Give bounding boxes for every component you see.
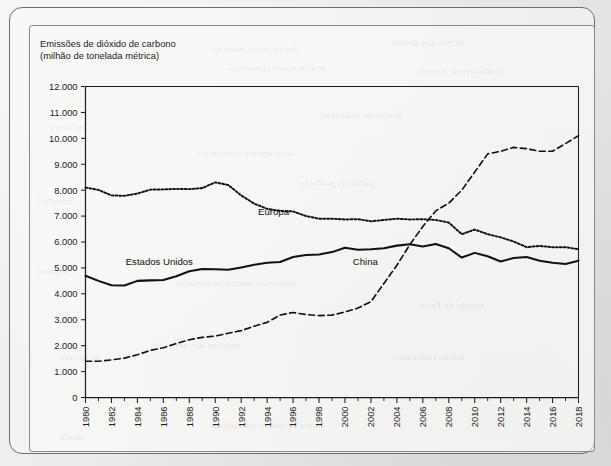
x-tick-label: 2010	[470, 407, 480, 428]
x-tick-label: 1990	[211, 407, 221, 428]
y-tick-label: 9.000	[54, 160, 77, 170]
x-tick-label: 1980	[81, 407, 91, 428]
x-tick-label: 2000	[340, 407, 350, 428]
y-tick-label: 10.000	[49, 134, 77, 144]
chart-series-labels: Estados UnidosEuropaChina	[126, 206, 379, 268]
x-tick-label: 1994	[263, 407, 273, 428]
x-tick-label: 1992	[237, 407, 247, 428]
x-tick-label: 2018	[574, 407, 584, 428]
x-tick-label: 2014	[522, 407, 532, 428]
series-label-europa: Europa	[258, 206, 290, 217]
y-tick-label: 1.000	[54, 367, 77, 377]
y-tick-label: 11.000	[50, 108, 78, 118]
line-chart: 01.0002.0003.0004.0005.0006.0007.0008.00…	[0, 0, 611, 466]
chart-axes	[81, 87, 579, 404]
x-tick-label: 2004	[392, 407, 402, 428]
y-tick-label: 8.000	[54, 186, 77, 196]
y-tick-label: 2.000	[54, 341, 77, 351]
x-tick-label: 1988	[185, 407, 195, 428]
y-tick-label: 0	[72, 393, 77, 403]
series-line-china	[86, 136, 579, 361]
chart-series-lines	[86, 136, 579, 361]
y-tick-label: 7.000	[54, 211, 77, 221]
x-tick-label: 1996	[288, 407, 298, 428]
x-tick-label: 2008	[444, 407, 454, 428]
y-tick-label: 6.000	[54, 237, 77, 247]
x-tick-label: 1982	[107, 407, 117, 428]
x-axis-tick-labels: 1980198219841986198819901992199419961998…	[81, 407, 584, 428]
series-label-estados-unidos: Estados Unidos	[126, 256, 193, 267]
y-tick-label: 12.000	[49, 82, 77, 92]
series-line-europa	[86, 182, 579, 249]
y-tick-label: 3.000	[54, 315, 77, 325]
y-axis-tick-labels: 01.0002.0003.0004.0005.0006.0007.0008.00…	[49, 82, 77, 403]
x-tick-label: 2012	[496, 407, 506, 428]
x-tick-label: 1986	[159, 407, 169, 428]
x-tick-label: 2002	[366, 407, 376, 428]
scanned-page-background: Emissões de dióxido de carbono (milhão d…	[0, 0, 611, 466]
x-tick-label: 2016	[548, 407, 558, 428]
y-tick-label: 5.000	[54, 263, 77, 273]
y-tick-label: 4.000	[54, 289, 77, 299]
x-tick-label: 2006	[418, 407, 428, 428]
x-tick-label: 1998	[314, 407, 324, 428]
x-tick-label: 1984	[133, 407, 143, 428]
series-label-china: China	[353, 256, 379, 267]
